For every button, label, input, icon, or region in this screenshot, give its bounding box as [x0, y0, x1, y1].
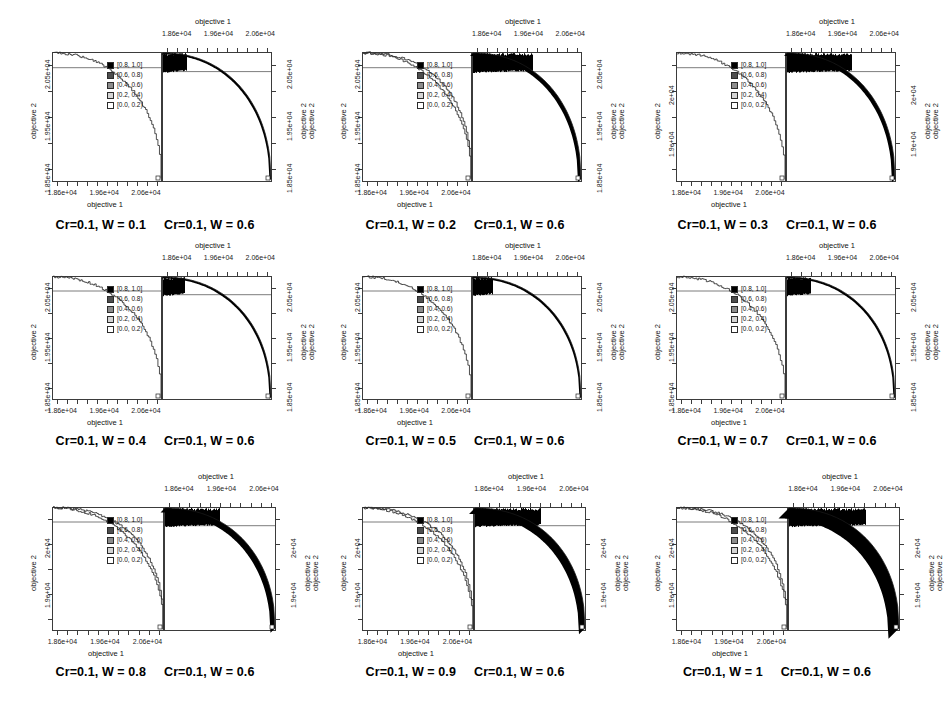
caption-right: Cr=0.1, W = 0.6 — [786, 218, 876, 232]
y-axis-ticklabel-right: 1.9e+04 — [290, 582, 297, 608]
x-axis-ticklabel-top: 2.06e+04 — [246, 254, 275, 261]
axis-tick — [77, 400, 78, 404]
axis-tick — [900, 594, 904, 595]
x-axis-ticklabel-bottom: 1.96e+04 — [713, 407, 742, 414]
axis-tick — [711, 182, 712, 186]
x-axis-ticklabel-bottom: 1.86e+04 — [358, 407, 387, 414]
pareto-front-curve — [165, 508, 275, 630]
x-axis-ticklabel-top: 1.96e+04 — [828, 254, 857, 261]
legend-swatch-icon — [417, 92, 424, 99]
caption-left: Cr=0.1, W = 0.7 — [678, 434, 768, 448]
axis-tick — [763, 631, 764, 635]
axis-tick — [157, 182, 158, 186]
axis-tick — [783, 631, 784, 635]
x-axis-ticklabel-bottom: 1.96e+04 — [89, 407, 118, 414]
legend: [0.8, 1.0][0.6, 0.8)[0.4, 0.6)[0.2, 0.4)… — [731, 61, 767, 110]
legend-swatch-icon — [731, 286, 738, 293]
y-axis-ticklabel-left: 1.85e+04 — [44, 382, 51, 411]
x-axis-ticklabel-top: 2.06e+04 — [556, 30, 585, 37]
pareto-front-curve — [163, 53, 271, 181]
axis-tick — [276, 594, 280, 595]
legend-swatch-icon — [417, 326, 424, 333]
legend-swatch-icon — [107, 102, 114, 109]
caption-right: Cr=0.1, W = 0.6 — [474, 665, 564, 679]
legend-item: [0.6, 0.8) — [107, 526, 143, 535]
x-axis-title-bottom: objective 1 — [711, 201, 747, 209]
y-axis-ticklabel-left: 1.95e+04 — [668, 333, 675, 362]
axis-tick — [397, 400, 398, 404]
axis-tick — [582, 288, 586, 289]
y-axis-title-left: objective 2 — [654, 324, 662, 360]
panel-caption: Cr=0.1, W = 0.5Cr=0.1, W = 0.6 — [310, 434, 620, 448]
axis-tick — [276, 544, 280, 545]
legend-item-label: [0.4, 0.6) — [427, 306, 453, 313]
axis-tick — [272, 363, 276, 364]
figure-cell-p8: [0.8, 1.0][0.6, 0.8)[0.4, 0.6)[0.2, 0.4)… — [310, 465, 620, 702]
axis-tick — [367, 400, 368, 404]
axis-tick — [586, 569, 590, 570]
x-axis-ticklabel-bottom: 1.86e+04 — [48, 189, 77, 196]
legend-item: [0.2, 0.4) — [417, 315, 453, 324]
subplot-right — [162, 52, 272, 182]
axis-tick — [586, 619, 590, 620]
legend-item-label: [0.2, 0.4) — [427, 547, 453, 554]
axis-tick — [721, 182, 722, 186]
pareto-front-curve — [473, 53, 581, 181]
plot-p4: [0.8, 1.0][0.6, 0.8)[0.4, 0.6)[0.2, 0.4)… — [0, 240, 310, 465]
legend-item: [0.8, 1.0] — [417, 516, 453, 525]
x-axis-ticklabel-top: 1.86e+04 — [472, 254, 501, 261]
y-axis-ticklabel-right: 1.85e+04 — [596, 382, 603, 411]
legend-item: [0.4, 0.6) — [731, 81, 767, 90]
legend-item: [0.8, 1.0] — [731, 285, 767, 294]
axis-tick — [77, 631, 78, 635]
axis-tick — [582, 313, 586, 314]
axis-tick — [272, 288, 276, 289]
y-axis-ticklabel-right: 1.9e+04 — [600, 582, 607, 608]
legend-item-label: [0.2, 0.4) — [741, 547, 767, 554]
panel-caption: Cr=0.1, W = 0.2Cr=0.1, W = 0.6 — [310, 218, 620, 232]
axis-tick — [751, 182, 752, 186]
y-axis-ticklabel-right: 2.05e+04 — [910, 283, 917, 312]
axis-tick — [691, 400, 692, 404]
legend-item-label: [0.4, 0.6) — [427, 82, 453, 89]
pareto-front-curve — [163, 277, 271, 399]
axis-tick — [417, 182, 418, 186]
x-axis-title-top: objective 1 — [198, 473, 234, 481]
figure-cell-p7: [0.8, 1.0][0.6, 0.8)[0.4, 0.6)[0.2, 0.4)… — [0, 465, 310, 702]
legend-item-label: [0.0, 0.2) — [427, 102, 453, 109]
plot-p8: [0.8, 1.0][0.6, 0.8)[0.4, 0.6)[0.2, 0.4)… — [310, 465, 620, 702]
figure-cell-p6: [0.8, 1.0][0.6, 0.8)[0.4, 0.6)[0.2, 0.4)… — [620, 240, 934, 465]
legend-item-label: [0.6, 0.8) — [741, 72, 767, 79]
axis-tick — [896, 388, 900, 389]
y-axis-title-left: objective 2 — [340, 555, 348, 591]
y-axis-ticklabel-left: 1.85e+04 — [354, 382, 361, 411]
legend-item: [0.8, 1.0] — [731, 61, 767, 70]
x-axis-ticklabel-top: 2.06e+04 — [559, 485, 588, 492]
x-axis-ticklabel-top: 1.86e+04 — [162, 254, 191, 261]
x-axis-title-top: objective 1 — [195, 18, 231, 26]
figure-cell-p1: [0.8, 1.0][0.6, 0.8)[0.4, 0.6)[0.2, 0.4)… — [0, 0, 310, 240]
x-axis-ticklabel-bottom: 2.06e+04 — [757, 638, 786, 645]
axis-tick — [732, 631, 733, 635]
x-axis-title-top: objective 1 — [195, 242, 231, 250]
x-axis-ticklabel-top: 1.86e+04 — [474, 485, 503, 492]
legend-swatch-icon — [731, 82, 738, 89]
y-axis-ticklabel-right: 1.85e+04 — [910, 382, 917, 411]
axis-tick — [408, 631, 409, 635]
x-axis-title-bottom: objective 1 — [87, 419, 123, 427]
axis-tick — [117, 182, 118, 186]
axis-tick — [137, 400, 138, 404]
x-axis-ticklabel-bottom: 1.96e+04 — [714, 638, 743, 645]
axis-tick — [712, 631, 713, 635]
pareto-front-curve — [475, 508, 585, 630]
legend-swatch-icon — [417, 296, 424, 303]
legend-swatch-icon — [107, 326, 114, 333]
y-axis-title-left: objective 2 — [340, 103, 348, 139]
panel-caption: Cr=0.1, W = 0.1Cr=0.1, W = 0.6 — [0, 218, 310, 232]
legend-item: [0.8, 1.0] — [417, 61, 453, 70]
legend-item: [0.4, 0.6) — [107, 81, 143, 90]
y-axis-ticklabel-left: 2e+04 — [44, 539, 51, 559]
legend-item: [0.4, 0.6) — [107, 305, 143, 314]
subplot-right — [162, 276, 272, 400]
y-axis-title-left: objective 2 — [30, 555, 38, 591]
